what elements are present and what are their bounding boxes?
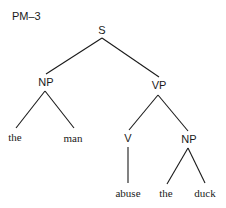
edge-np-duck: [188, 148, 205, 183]
edge-np-the: [16, 91, 45, 128]
node-v: V: [124, 132, 131, 144]
leaf-duck: duck: [194, 187, 215, 199]
leaf-the-subject: the: [8, 131, 21, 143]
parse-tree-diagram: PM–3 S NP VP V NP the man abuse the duck: [0, 0, 226, 208]
tree-edges: [0, 0, 226, 208]
edge-vp-v: [129, 95, 158, 130]
leaf-abuse: abuse: [115, 187, 140, 199]
leaf-man: man: [64, 132, 83, 144]
diagram-title: PM–3: [12, 10, 41, 22]
node-np-subject: NP: [38, 76, 53, 88]
edge-np-the2: [167, 148, 188, 184]
node-np-object: NP: [181, 133, 196, 145]
node-vp: VP: [152, 79, 167, 91]
edge-vp-np: [158, 95, 188, 131]
node-s: S: [98, 24, 105, 36]
edge-s-np: [46, 38, 102, 74]
edge-np-man: [45, 91, 74, 128]
edge-s-vp: [102, 38, 159, 77]
leaf-the-object: the: [159, 187, 172, 199]
